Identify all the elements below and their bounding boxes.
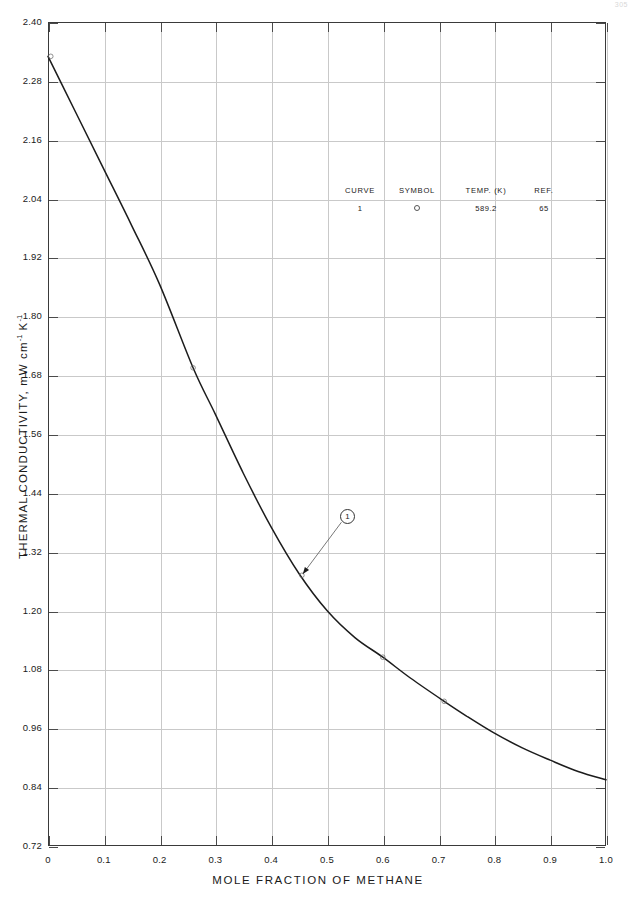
grid-line-horizontal <box>49 141 605 142</box>
legend-cell-ref: 65 <box>524 204 564 213</box>
y-axis-tick <box>49 435 58 436</box>
y-axis-tick <box>49 494 58 495</box>
x-axis-tick-label: 0 <box>28 854 68 865</box>
x-axis-tick-label: 0.2 <box>140 854 180 865</box>
grid-line-vertical <box>384 23 385 845</box>
grid-line-vertical <box>328 23 329 845</box>
y-axis-tick-label: 2.04 <box>2 193 42 204</box>
y-axis-tick-label: 0.84 <box>2 781 42 792</box>
y-axis-tick <box>49 847 58 848</box>
legend-header-ref: REF. <box>524 186 564 204</box>
grid-line-horizontal <box>49 82 605 83</box>
x-axis-tick-label: 0.8 <box>474 854 514 865</box>
x-axis-tick-label: 0.4 <box>251 854 291 865</box>
x-axis-tick <box>105 23 106 32</box>
x-axis-tick-label: 0.9 <box>530 854 570 865</box>
y-axis-tick-label: 0.72 <box>2 840 42 851</box>
y-axis-tick <box>49 23 58 24</box>
x-axis-tick <box>384 836 385 845</box>
legend-header-curve: CURVE <box>334 186 386 204</box>
y-axis-tick-label: 2.40 <box>2 16 42 27</box>
legend-header-symbol: SYMBOL <box>386 186 448 204</box>
grid-line-vertical <box>216 23 217 845</box>
x-axis-tick <box>216 23 217 32</box>
y-axis-tick <box>596 82 605 83</box>
y-axis-tick-label: 0.96 <box>2 722 42 733</box>
y-axis-tick <box>596 788 605 789</box>
grid-line-horizontal <box>49 435 605 436</box>
page-number: 305 <box>615 1 628 8</box>
grid-line-horizontal <box>49 494 605 495</box>
grid-line-horizontal <box>49 670 605 671</box>
y-axis-title-mid: K <box>17 322 29 335</box>
y-axis-tick <box>49 258 58 259</box>
grid-line-vertical <box>272 23 273 845</box>
y-axis-tick <box>596 376 605 377</box>
x-axis-tick-label: 0.5 <box>307 854 347 865</box>
y-axis-tick <box>596 435 605 436</box>
grid-line-horizontal <box>49 729 605 730</box>
y-axis-tick-label: 1.08 <box>2 663 42 674</box>
y-axis-tick-label: 2.28 <box>2 75 42 86</box>
y-axis-tick <box>49 670 58 671</box>
y-axis-tick <box>596 670 605 671</box>
y-axis-tick <box>596 553 605 554</box>
grid-line-horizontal <box>49 788 605 789</box>
x-axis-tick <box>440 23 441 32</box>
y-axis-tick <box>596 317 605 318</box>
grid-line-vertical <box>161 23 162 845</box>
legend-cell-curve: 1 <box>334 204 386 213</box>
x-axis-tick <box>49 836 50 845</box>
y-axis-tick <box>49 553 58 554</box>
y-axis-tick-label: 1.80 <box>2 310 42 321</box>
y-axis-tick <box>49 317 58 318</box>
x-axis-tick <box>607 23 608 32</box>
x-axis-tick-label: 0.7 <box>419 854 459 865</box>
x-axis-tick <box>440 836 441 845</box>
grid-line-horizontal <box>49 376 605 377</box>
x-axis-tick-label: 0.3 <box>195 854 235 865</box>
y-axis-tick <box>49 729 58 730</box>
plot-area <box>48 22 606 846</box>
x-axis-tick <box>272 836 273 845</box>
y-axis-tick <box>49 788 58 789</box>
y-axis-tick <box>596 200 605 201</box>
x-axis-tick-label: 0.6 <box>363 854 403 865</box>
y-axis-tick-label: 1.32 <box>2 546 42 557</box>
grid-line-horizontal <box>49 317 605 318</box>
x-axis-tick <box>105 836 106 845</box>
chart-page: 305 THERMAL CONDUCTIVITY, mW cm-1 K-1 MO… <box>0 0 636 906</box>
legend-table: CURVE SYMBOL TEMP. (K) REF. 1 589.2 65 <box>334 186 564 213</box>
y-axis-tick-label: 1.92 <box>2 251 42 262</box>
legend-header-row: CURVE SYMBOL TEMP. (K) REF. <box>334 186 564 204</box>
grid-line-horizontal <box>49 612 605 613</box>
x-axis-tick <box>272 23 273 32</box>
legend-cell-temp: 589.2 <box>448 204 524 213</box>
x-axis-tick <box>161 23 162 32</box>
x-axis-tick-label: 1.0 <box>586 854 626 865</box>
x-axis-tick <box>384 23 385 32</box>
y-axis-tick <box>596 847 605 848</box>
x-axis-tick <box>607 836 608 845</box>
y-axis-tick-label: 2.16 <box>2 134 42 145</box>
open-circle-icon <box>414 205 420 211</box>
x-axis-title: MOLE FRACTION OF METHANE <box>0 874 636 886</box>
grid-line-horizontal <box>49 553 605 554</box>
y-axis-tick <box>596 23 605 24</box>
x-axis-tick-label: 0.1 <box>84 854 124 865</box>
y-axis-tick <box>596 141 605 142</box>
legend: CURVE SYMBOL TEMP. (K) REF. 1 589.2 65 <box>334 186 564 213</box>
y-axis-tick <box>49 612 58 613</box>
y-axis-tick <box>596 612 605 613</box>
y-axis-tick-label: 1.56 <box>2 428 42 439</box>
x-axis-tick <box>495 836 496 845</box>
legend-header-temp: TEMP. (K) <box>448 186 524 204</box>
x-axis-tick <box>551 23 552 32</box>
y-axis-tick <box>596 258 605 259</box>
y-axis-tick <box>596 729 605 730</box>
grid-line-vertical <box>607 23 608 845</box>
grid-line-vertical <box>105 23 106 845</box>
x-axis-tick <box>328 23 329 32</box>
y-axis-tick <box>49 376 58 377</box>
x-axis-tick <box>161 836 162 845</box>
